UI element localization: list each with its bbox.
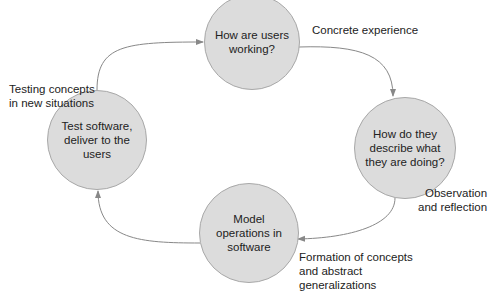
arrow-right-to-bottom [298,198,395,239]
label-concrete-experience: Concrete experience [312,23,418,37]
label-formation-of-concepts: Formation of conceptsand abstractgeneral… [299,250,413,292]
label-observation-reflection: Observationand reflection [418,186,487,214]
arrow-left-to-top [97,42,203,90]
node-model-operations: Modeloperations insoftware [199,183,299,283]
arrow-top-to-right [299,47,393,96]
arrow-bottom-to-left [98,191,200,243]
label-testing-concepts: Testing conceptsin new situations [9,82,95,110]
node-how-do-they-describe: How do theydescribe whatthey are doing? [354,97,456,199]
